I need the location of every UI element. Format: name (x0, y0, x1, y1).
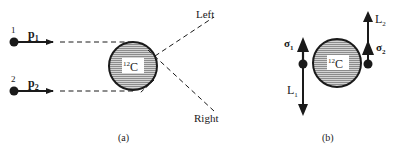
ang-mom-2-arrowhead (363, 11, 373, 22)
caption-a: (a) (118, 132, 129, 144)
momentum-2-label: p2 (28, 76, 39, 92)
momentum-1-label: p1 (28, 27, 39, 43)
spin-2-label: σ2 (376, 41, 386, 56)
particle-1-number: 1 (11, 25, 16, 35)
ang-mom-1-arrowhead (298, 104, 308, 116)
particle-1-b: σ1 L1 (284, 37, 309, 116)
right-label: Right (194, 112, 218, 124)
particle-2-dot (364, 60, 373, 69)
particle-1: 1 p1 (10, 25, 134, 47)
particle-2-b: σ2 L2 (362, 11, 386, 69)
spin-1-arrowhead (297, 37, 309, 52)
panel-a: 1 p1 2 p2 12C Left Right (a) (10, 8, 219, 144)
spin-1-label: σ1 (284, 37, 294, 52)
scattering-diagram: 1 p1 2 p2 12C Left Right (a) (0, 0, 395, 147)
ang-mom-1-label: L1 (287, 83, 298, 99)
panel-b: 12C σ1 L1 σ2 L2 (b) (284, 11, 386, 144)
carbon-12-nucleus-b: 12C (313, 39, 361, 87)
left-label: Left (196, 8, 214, 20)
particle-2-number: 2 (11, 74, 16, 84)
scatter-right-dashed (148, 50, 214, 111)
caption-b: (b) (322, 132, 334, 144)
spin-2-arrowhead (362, 40, 374, 55)
scatter-left-dashed (155, 17, 214, 56)
carbon-12-nucleus-a: 12C (109, 42, 157, 90)
ang-mom-2-label: L2 (375, 12, 386, 28)
particle-1-dot (299, 60, 308, 69)
